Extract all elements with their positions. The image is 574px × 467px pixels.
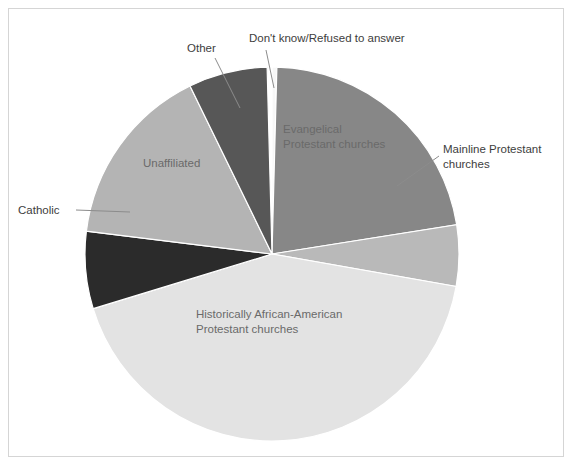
pie-slice-evangelical-protestant-churches[interactable] (272, 67, 457, 254)
slice-label-don-t-know-refused-to-answer: Don't know/Refused to answer (249, 32, 405, 44)
slice-label-line: Evangelical (283, 123, 342, 135)
slice-label-line: Other (187, 42, 216, 54)
slice-label-line: Protestant churches (283, 138, 386, 150)
slice-label-line: Unaffiliated (143, 157, 200, 169)
pie-chart-svg: Don't know/Refused to answerEvangelicalP… (0, 0, 574, 467)
slice-label-line: Catholic (18, 204, 60, 216)
slice-label-line: Don't know/Refused to answer (249, 32, 405, 44)
pie-slices-group (85, 67, 459, 441)
slice-label-line: Mainline Protestant (443, 143, 542, 155)
pie-chart-figure: Don't know/Refused to answerEvangelicalP… (0, 0, 574, 467)
slice-label-other: Other (187, 42, 216, 54)
slice-label-catholic: Catholic (18, 204, 60, 216)
slice-label-line: Historically African-American (196, 308, 342, 320)
slice-label-mainline-protestant-churches: Mainline Protestantchurches (443, 143, 542, 170)
slice-label-line: Protestant churches (196, 323, 299, 335)
slice-label-unaffiliated: Unaffiliated (143, 157, 200, 169)
slice-label-line: churches (443, 158, 490, 170)
